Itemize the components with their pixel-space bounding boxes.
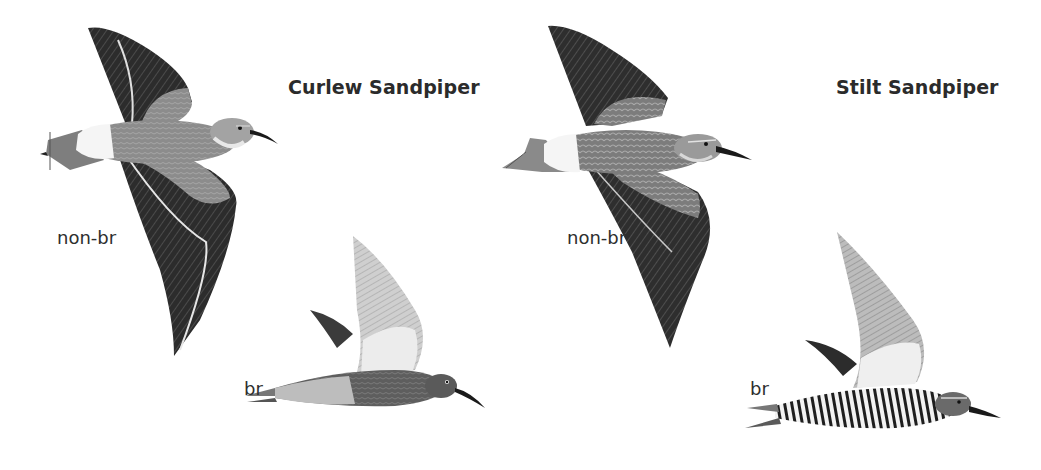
field-guide-plate: Curlew Sandpiper xyxy=(0,0,1041,470)
label-curlew-breeding: br xyxy=(244,378,263,399)
curlew-sandpiper-breeding-illustration xyxy=(245,230,490,430)
species-title-curlew-sandpiper: Curlew Sandpiper xyxy=(288,76,480,98)
stilt-sandpiper-nonbreeding-illustration xyxy=(502,22,757,357)
label-stilt-breeding: br xyxy=(750,378,769,399)
species-title-stilt-sandpiper: Stilt Sandpiper xyxy=(836,76,999,98)
label-stilt-nonbreeding: non-br xyxy=(567,227,626,248)
label-curlew-nonbreeding: non-br xyxy=(57,227,116,248)
stilt-sandpiper-breeding-illustration xyxy=(745,228,1005,438)
